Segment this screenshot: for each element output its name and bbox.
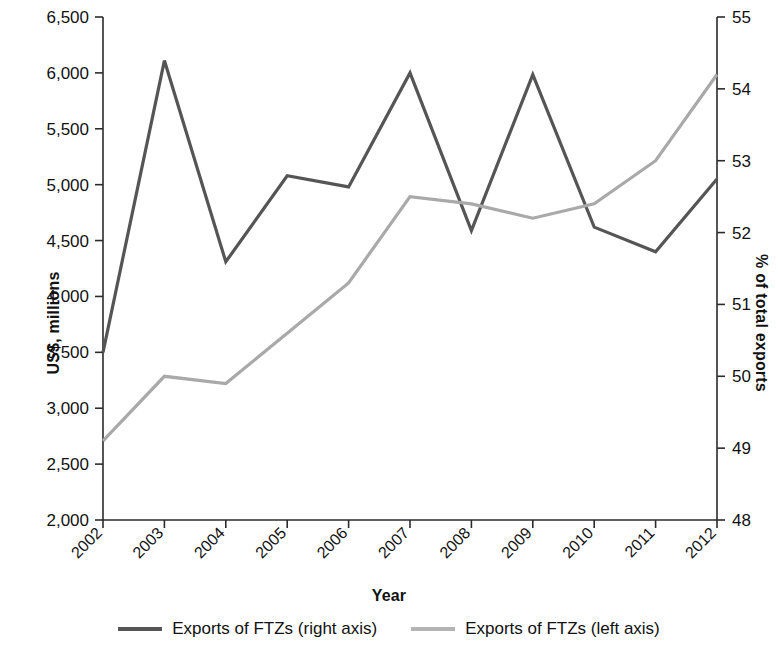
y-axis-right-tick-label: 53 (732, 152, 751, 171)
y-axis-left-tick-label: 5,000 (46, 176, 89, 195)
y-axis-left-tick-label: 2,500 (46, 455, 89, 474)
data-series-line-1 (103, 61, 717, 353)
x-axis-tick-label: 2005 (252, 524, 289, 561)
legend-label-light: Exports of FTZs (left axis) (465, 619, 660, 639)
plot-area: 2,0002,5003,0003,5004,0004,5005,0005,500… (0, 0, 778, 645)
y-axis-left-tick-label: 2,000 (46, 511, 89, 530)
x-axis-tick-label: 2012 (682, 524, 719, 561)
y-axis-left-tick-label: 6,000 (46, 64, 89, 83)
y-axis-right-tick-label: 49 (732, 439, 751, 458)
y-axis-right-tick-label: 48 (732, 511, 751, 530)
x-axis-tick-label: 2003 (129, 524, 166, 561)
legend-swatch-dark-icon (118, 627, 162, 631)
x-axis-ticks: 2002200320042005200620072008200920102011… (68, 520, 719, 561)
data-series-line-2 (103, 74, 717, 440)
x-axis-tick-label: 2008 (436, 524, 473, 561)
x-axis-tick-label: 2007 (375, 524, 412, 561)
y-axis-right-tick-label: 55 (732, 8, 751, 27)
x-axis-tick-label: 2006 (314, 524, 351, 561)
y-axis-left-tick-label: 6,500 (46, 8, 89, 27)
y-axis-right-ticks: 4849505152535455 (717, 8, 751, 530)
y-axis-left-tick-label: 3,500 (46, 343, 89, 362)
y-axis-left-tick-label: 5,500 (46, 120, 89, 139)
legend-item-light[interactable]: Exports of FTZs (left axis) (411, 619, 660, 639)
y-axis-right-tick-label: 51 (732, 295, 751, 314)
y-axis-left-ticks: 2,0002,5003,0003,5004,0004,5005,0005,500… (46, 8, 103, 530)
y-axis-right-tick-label: 54 (732, 80, 751, 99)
y-axis-left-tick-label: 4,500 (46, 232, 89, 251)
x-axis-tick-label: 2011 (621, 524, 657, 560)
legend-item-dark[interactable]: Exports of FTZs (right axis) (118, 619, 377, 639)
y-axis-left-tick-label: 3,000 (46, 399, 89, 418)
legend-label-dark: Exports of FTZs (right axis) (172, 619, 377, 639)
x-axis-tick-label: 2004 (191, 524, 228, 561)
legend-swatch-light-icon (411, 627, 455, 631)
data-series-group (103, 61, 717, 441)
y-axis-right-tick-label: 50 (732, 367, 751, 386)
chart-legend: Exports of FTZs (right axis) Exports of … (0, 619, 778, 639)
y-axis-right-tick-label: 52 (732, 224, 751, 243)
x-axis-tick-label: 2009 (498, 524, 535, 561)
x-axis-tick-label: 2010 (559, 524, 596, 561)
chart-container: US$, millions % of total exports Year 2,… (0, 0, 778, 645)
y-axis-left-tick-label: 4,000 (46, 287, 89, 306)
